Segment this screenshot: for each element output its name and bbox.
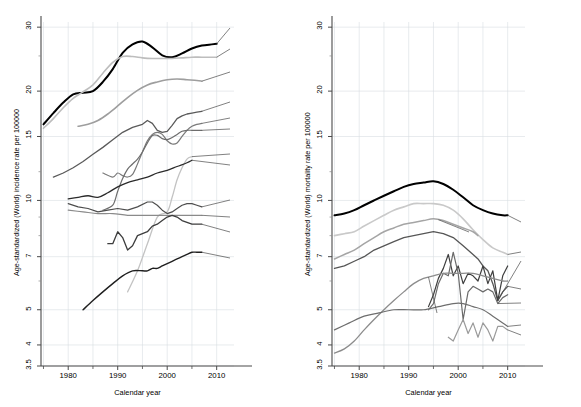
mortality-y-axis-label: Age-standardized (World) mortality rate … [303, 112, 312, 276]
leader-line [508, 252, 521, 254]
series-line [43, 56, 216, 128]
leader-line [498, 303, 521, 304]
series-line [128, 157, 192, 292]
leader-line [508, 215, 521, 222]
label-leader-lines [192, 28, 230, 258]
y-tick-label: 20 [315, 81, 324, 99]
y-tick-label: 4 [315, 334, 324, 352]
x-tick-label: 1990 [393, 371, 425, 380]
incidence-plot-canvas [0, 0, 290, 407]
leader-line [438, 220, 469, 232]
series-line [448, 320, 507, 342]
y-tick-label: 7 [24, 246, 33, 264]
leader-line [217, 28, 230, 44]
y-tick-label: 15 [315, 126, 324, 144]
y-tick-label: 3.5 [24, 356, 33, 374]
leader-line [202, 72, 230, 81]
axes [37, 16, 252, 370]
series-line [334, 181, 507, 215]
x-tick-label: 2000 [151, 371, 183, 380]
mortality-x-axis-label: Calendar year [312, 388, 545, 397]
leader-line [192, 160, 230, 165]
incidence-x-axis-label: Calendar year [21, 388, 254, 397]
figure-two-panel-line-charts: Age-standardized (World) incidence rate … [0, 0, 581, 407]
leader-line [508, 286, 521, 289]
leader-line [508, 325, 521, 326]
leader-line [202, 252, 230, 258]
gridlines [41, 22, 234, 366]
y-tick-label: 15 [24, 126, 33, 144]
series-line [53, 111, 201, 177]
leader-line [217, 49, 230, 57]
y-tick-label: 10 [24, 190, 33, 208]
series-lines [334, 181, 507, 353]
x-tick-label: 1990 [102, 371, 134, 380]
y-tick-label: 5 [315, 299, 324, 317]
leader-line [202, 215, 230, 217]
x-tick-label: 1980 [343, 371, 375, 380]
y-tick-label: 4 [24, 334, 33, 352]
leader-line [202, 129, 230, 130]
leader-line [202, 200, 230, 207]
series-line [334, 232, 507, 301]
leader-line [202, 224, 230, 232]
series-lines [43, 41, 216, 309]
x-tick-label: 2010 [492, 371, 524, 380]
series-line [68, 210, 202, 215]
series-line [78, 79, 202, 126]
series-line [334, 219, 478, 259]
y-tick-label: 30 [24, 17, 33, 35]
x-tick-label: 1980 [52, 371, 84, 380]
series-line [68, 202, 202, 214]
x-tick-label: 2000 [442, 371, 474, 380]
panel-incidence: Age-standardized (World) incidence rate … [0, 0, 290, 407]
gridlines [332, 22, 525, 366]
axes [328, 16, 543, 370]
y-tick-label: 7 [315, 246, 324, 264]
series-line [334, 273, 507, 353]
y-tick-label: 3.5 [315, 356, 324, 374]
y-tick-label: 10 [315, 190, 324, 208]
leader-line [508, 330, 521, 335]
leader-line [202, 118, 230, 123]
mortality-plot-canvas [291, 0, 581, 407]
series-line [108, 215, 202, 250]
leader-line [202, 102, 230, 111]
series-line [43, 41, 216, 124]
y-tick-label: 30 [315, 17, 324, 35]
incidence-y-axis-label: Age-standardized (World) incidence rate … [12, 109, 21, 276]
y-tick-label: 20 [24, 81, 33, 99]
y-tick-label: 5 [24, 299, 33, 317]
panel-mortality: Age-standardized (World) mortality rate … [291, 0, 581, 407]
x-tick-label: 2010 [201, 371, 233, 380]
leader-line [192, 154, 230, 157]
